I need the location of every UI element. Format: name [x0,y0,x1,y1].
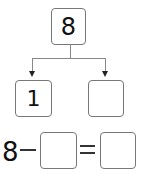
right-part-box[interactable] [88,80,124,117]
top-number-box: 8 [51,8,86,45]
left-arrow-icon [29,71,35,77]
minus-sign-icon [20,149,36,151]
right-arrow-icon [102,71,108,77]
left-branch-line [32,58,33,72]
top-number: 8 [61,15,76,39]
subtrahend-answer-box[interactable] [40,132,77,169]
left-part-value: 1 [27,88,41,110]
result-answer-box[interactable] [100,132,136,169]
right-branch-line [105,58,106,72]
branch-horizontal-line [32,58,105,59]
left-part-box[interactable]: 1 [15,80,52,117]
minuend: 8 [2,139,19,165]
stem-line [70,44,71,58]
